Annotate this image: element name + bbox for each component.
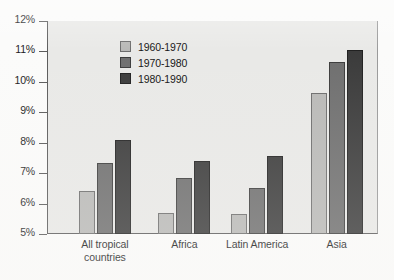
bar xyxy=(311,93,327,234)
bar-group xyxy=(231,21,283,234)
y-axis-tick-mark xyxy=(39,173,47,174)
y-axis-tick-mark xyxy=(39,51,47,52)
bar xyxy=(329,62,345,234)
legend-item-label: 1970-1980 xyxy=(138,57,187,69)
bar xyxy=(115,140,131,234)
bar xyxy=(158,213,174,234)
y-axis-tick-label: 9% xyxy=(20,104,35,116)
legend-item[interactable]: 1970-1980 xyxy=(120,57,187,68)
bar-chart: 12%11%10%9%8%7%6%5% 1960-19701970-198019… xyxy=(0,0,394,280)
y-axis-tick-mark xyxy=(39,143,47,144)
y-axis-tick-label: 8% xyxy=(20,135,35,147)
y-axis-tick-label: 6% xyxy=(20,196,35,208)
y-axis-tick-label: 5% xyxy=(20,226,35,238)
y-axis-tick-mark xyxy=(39,21,47,22)
x-axis-category-label: Asia xyxy=(282,238,392,251)
y-axis-tick-label: 10% xyxy=(15,74,35,86)
y-axis-tick-mark xyxy=(39,234,47,235)
legend-item-label: 1960-1970 xyxy=(138,41,187,53)
bar xyxy=(194,161,210,234)
legend-item-label: 1980-1990 xyxy=(138,73,187,85)
legend-swatch xyxy=(120,73,131,84)
y-axis-tick-label: 11% xyxy=(15,43,35,55)
y-axis-tick-label: 12% xyxy=(15,13,35,25)
bar xyxy=(347,50,363,234)
legend-swatch xyxy=(120,57,131,68)
y-axis-tick-mark xyxy=(39,82,47,83)
y-axis-tick-label: 7% xyxy=(20,165,35,177)
bar xyxy=(231,214,247,234)
y-axis-tick-mark xyxy=(39,204,47,205)
bar-groups xyxy=(47,21,378,234)
bar xyxy=(97,163,113,235)
legend-swatch xyxy=(120,41,131,52)
bar xyxy=(176,178,192,234)
bar xyxy=(249,188,265,234)
chart-legend: 1960-19701970-19801980-1990 xyxy=(120,41,187,84)
y-axis: 12%11%10%9%8%7%6%5% xyxy=(0,0,47,235)
bar xyxy=(79,191,95,234)
x-axis-labels: All tropical countriesAfricaLatin Americ… xyxy=(47,238,378,278)
y-axis-tick-mark xyxy=(39,112,47,113)
legend-item[interactable]: 1980-1990 xyxy=(120,73,187,84)
bar xyxy=(267,156,283,234)
bar-group xyxy=(311,21,363,234)
legend-item[interactable]: 1960-1970 xyxy=(120,41,187,52)
